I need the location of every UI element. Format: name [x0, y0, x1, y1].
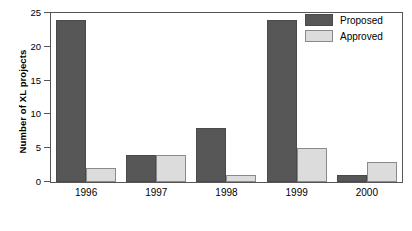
- y-tick-mark: [44, 113, 50, 114]
- y-axis-title: Number of XL projects: [17, 32, 28, 172]
- y-tick-label: 5: [36, 141, 41, 154]
- y-tick-label: 15: [30, 74, 41, 87]
- bar-proposed-1997[interactable]: [126, 155, 156, 182]
- y-tick-label: 10: [30, 107, 41, 120]
- x-axis-label: 1998: [195, 187, 257, 198]
- bar-group: [126, 13, 186, 182]
- y-tick-label: 20: [30, 40, 41, 53]
- y-tick-label: 0: [36, 175, 41, 188]
- legend-item-approved[interactable]: Approved: [305, 30, 383, 42]
- y-tick-mark: [44, 80, 50, 81]
- bar-approved-1997[interactable]: [156, 155, 186, 182]
- x-axis-labels: 19961997199819992000: [51, 187, 402, 198]
- bar-approved-1996[interactable]: [86, 168, 116, 182]
- bar-proposed-1998[interactable]: [196, 128, 226, 182]
- x-axis-label: 1997: [125, 187, 187, 198]
- chart-legend: ProposedApproved: [305, 14, 383, 42]
- y-tick-mark: [44, 46, 50, 47]
- x-axis-label: 1996: [55, 187, 117, 198]
- legend-item-proposed[interactable]: Proposed: [305, 14, 383, 26]
- legend-swatch-proposed: [305, 14, 333, 26]
- legend-label: Approved: [340, 31, 383, 42]
- bar-proposed-1996[interactable]: [56, 20, 86, 182]
- bar-chart: Number of XL projects 0510152025 1996199…: [0, 0, 412, 231]
- bar-approved-1998[interactable]: [226, 175, 256, 182]
- y-tick-mark: [44, 12, 50, 13]
- bar-approved-1999[interactable]: [297, 148, 327, 182]
- bar-group: [196, 13, 256, 182]
- legend-label: Proposed: [340, 15, 383, 26]
- legend-swatch-approved: [305, 30, 333, 42]
- x-axis-label: 2000: [336, 187, 398, 198]
- bar-group: [56, 13, 116, 182]
- bar-approved-2000[interactable]: [367, 162, 397, 182]
- x-axis-label: 1999: [266, 187, 328, 198]
- y-tick-mark: [44, 147, 50, 148]
- y-tick-mark: [44, 181, 50, 182]
- y-tick-label: 25: [30, 6, 41, 19]
- bar-proposed-1999[interactable]: [267, 20, 297, 182]
- bar-proposed-2000[interactable]: [337, 175, 367, 182]
